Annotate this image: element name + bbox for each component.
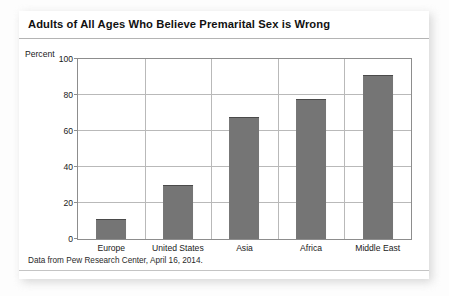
y-axis-tick-label: 100	[59, 54, 73, 64]
x-axis-tick-label: Africa	[300, 243, 322, 253]
x-axis-tick-label: Asia	[236, 243, 253, 253]
title-divider	[19, 38, 429, 39]
bar	[296, 99, 326, 239]
y-axis-tick-label: 60	[63, 126, 73, 136]
gridline-vertical	[344, 59, 345, 239]
bar	[96, 219, 126, 239]
bar	[230, 117, 260, 239]
bar-band: Asia	[211, 59, 278, 239]
y-axis-tick-label: 20	[63, 198, 73, 208]
x-axis-tick-label: Europe	[97, 243, 125, 253]
y-axis-tick-label: 0	[68, 234, 73, 244]
bar-band: Europe	[78, 59, 145, 239]
y-axis-tick-label: 40	[63, 162, 73, 172]
y-axis-tick-label: 80	[63, 90, 73, 100]
source-note: Data from Pew Research Center, April 16,…	[28, 256, 203, 265]
chart-card: Adults of All Ages Who Believe Premarita…	[19, 11, 429, 279]
x-axis-tick-label: United States	[152, 243, 204, 253]
x-axis-tick-label: Middle East	[355, 243, 400, 253]
bar-band: United States	[145, 59, 212, 239]
chart-figure: Adults of All Ages Who Believe Premarita…	[0, 0, 449, 296]
y-axis-title: Percent	[25, 49, 55, 59]
chart-title: Adults of All Ages Who Believe Premarita…	[28, 18, 330, 30]
gridline-vertical	[278, 59, 279, 239]
plot-area: 020406080100EuropeUnited StatesAsiaAfric…	[77, 58, 412, 240]
bar-band: Middle East	[344, 59, 411, 239]
bar	[163, 185, 193, 239]
gridline-vertical	[145, 59, 146, 239]
bar	[363, 75, 393, 239]
footer-divider	[19, 270, 429, 271]
gridline-vertical	[211, 59, 212, 239]
bar-band: Africa	[278, 59, 345, 239]
